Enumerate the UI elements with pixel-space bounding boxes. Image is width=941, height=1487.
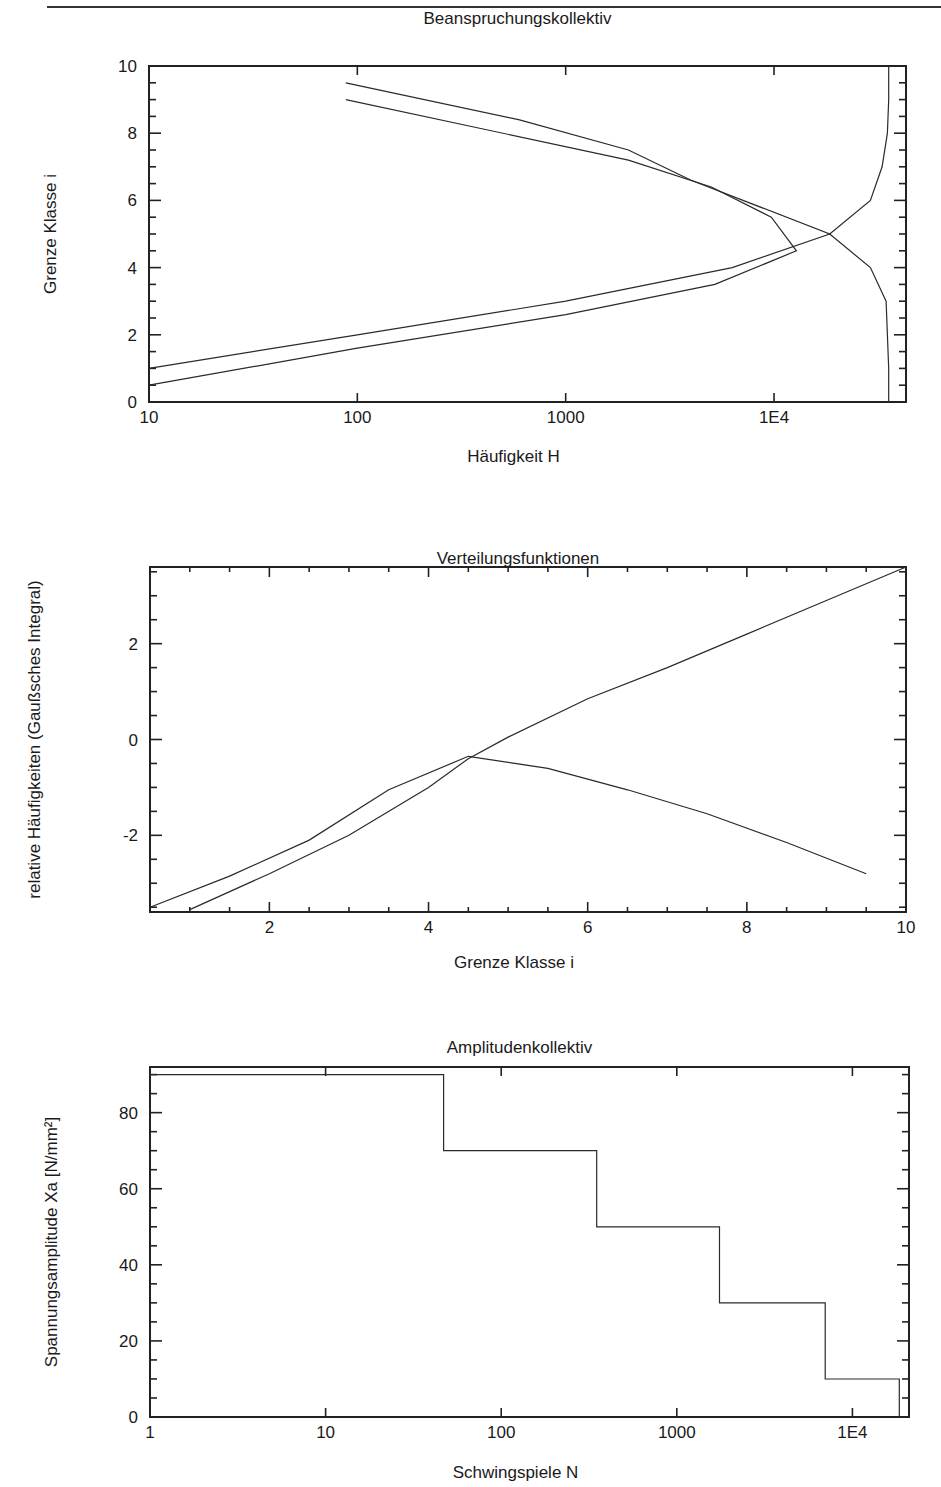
x-tick-label: 1000 (547, 408, 585, 427)
y-tick-label: 2 (128, 326, 137, 345)
chart-amplitudenkollektiv: Amplitudenkollektiv02040608011010010001E… (0, 1000, 941, 1487)
data-series (830, 66, 889, 402)
y-tick-label: 20 (119, 1332, 138, 1351)
data-series (149, 100, 796, 386)
y-tick-label: 60 (119, 1180, 138, 1199)
y-tick-label: 10 (118, 57, 137, 76)
plot-frame (149, 66, 906, 402)
x-axis-label: Schwingspiele N (453, 1463, 579, 1482)
x-axis-label: Grenze Klasse i (454, 953, 574, 972)
y-axis-label: Grenze Klasse i (41, 174, 60, 294)
y-tick-label: 2 (129, 635, 138, 654)
data-series (150, 756, 866, 907)
y-axis-label: relative Häufigkeiten (Gaußsches Integra… (25, 580, 44, 898)
y-tick-label: 80 (119, 1104, 138, 1123)
chart-title: Beanspruchungskollektiv (423, 9, 612, 28)
x-axis-label: Häufigkeit H (467, 447, 560, 466)
y-tick-label: 8 (128, 124, 137, 143)
x-tick-label: 1E4 (759, 408, 789, 427)
x-tick-label: 4 (424, 918, 433, 937)
plot-frame (150, 1067, 909, 1417)
x-tick-label: 6 (583, 918, 592, 937)
x-tick-label: 8 (742, 918, 751, 937)
chart-beanspruchungskollektiv: Beanspruchungskollektiv02468101010010001… (0, 0, 941, 480)
y-tick-label: 4 (128, 259, 137, 278)
x-tick-label: 1 (145, 1423, 154, 1442)
chart-title: Amplitudenkollektiv (447, 1038, 593, 1057)
x-tick-label: 2 (265, 918, 274, 937)
y-axis-label: Spannungsamplitude Xa [N/mm²] (42, 1117, 61, 1367)
x-tick-label: 1E4 (837, 1423, 867, 1442)
y-tick-label: 0 (129, 1408, 138, 1427)
y-tick-label: 0 (129, 731, 138, 750)
data-series (149, 83, 830, 369)
x-tick-label: 1000 (658, 1423, 696, 1442)
chart-verteilungsfunktionen: Verteilungsfunktionen-202246810Grenze Kl… (0, 540, 941, 980)
y-tick-label: 0 (128, 393, 137, 412)
x-tick-label: 10 (140, 408, 159, 427)
chart-title: Verteilungsfunktionen (437, 549, 600, 568)
x-tick-label: 100 (343, 408, 371, 427)
x-tick-label: 10 (897, 918, 916, 937)
y-tick-label: 40 (119, 1256, 138, 1275)
x-tick-label: 100 (487, 1423, 515, 1442)
y-tick-label: 6 (128, 191, 137, 210)
data-series (190, 567, 906, 910)
y-tick-label: -2 (123, 826, 138, 845)
data-series (150, 1075, 899, 1417)
x-tick-label: 10 (316, 1423, 335, 1442)
